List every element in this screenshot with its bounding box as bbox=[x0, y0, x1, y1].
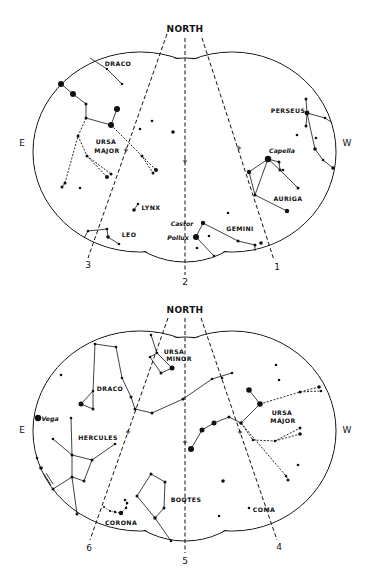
star-icon bbox=[132, 208, 136, 212]
star-icon bbox=[52, 438, 55, 441]
star-icon bbox=[313, 147, 317, 151]
star-icon bbox=[170, 366, 175, 371]
star-icon bbox=[248, 507, 251, 510]
star-icon bbox=[282, 169, 285, 172]
star-icon bbox=[87, 230, 90, 233]
star-icon bbox=[317, 385, 321, 389]
meridian-number-2: 2 bbox=[182, 277, 188, 287]
star-icon bbox=[106, 235, 110, 239]
star-icon bbox=[105, 175, 109, 179]
star-icon bbox=[77, 135, 80, 138]
star-icon bbox=[315, 137, 318, 140]
star-icon bbox=[257, 401, 263, 407]
east-label: E bbox=[19, 138, 25, 148]
star-icon bbox=[35, 415, 41, 421]
west-label: W bbox=[343, 425, 352, 435]
meridian-number-6: 6 bbox=[86, 543, 92, 553]
star-icon bbox=[149, 356, 152, 359]
star-icon bbox=[114, 511, 116, 513]
star-icon bbox=[163, 507, 166, 510]
star-icon bbox=[305, 111, 310, 116]
star-name-vega: Vega bbox=[41, 415, 58, 423]
constellation-label-perseus: PERSEUS bbox=[271, 107, 306, 114]
meridian-number-3: 3 bbox=[85, 260, 91, 270]
star-icon bbox=[58, 81, 64, 87]
star-icon bbox=[212, 421, 217, 426]
star-icon bbox=[60, 374, 63, 377]
constellation-label-ursa: URSA bbox=[272, 409, 293, 416]
meridian-number-4: 4 bbox=[276, 542, 282, 552]
star-icon bbox=[285, 209, 289, 213]
constellation-label-auriga: AURIGA bbox=[274, 195, 303, 202]
constellation-label-coma: COMA bbox=[253, 506, 275, 513]
star-icon bbox=[126, 502, 129, 505]
star-icon bbox=[265, 156, 271, 162]
star-icon bbox=[70, 91, 76, 97]
star-icon bbox=[114, 106, 120, 112]
star-icon bbox=[92, 408, 95, 411]
star-icon bbox=[109, 510, 111, 512]
constellation-label-lynx: LYNX bbox=[141, 204, 160, 211]
star-icon bbox=[141, 155, 144, 158]
star-icon bbox=[305, 98, 308, 101]
star-icon bbox=[188, 446, 194, 452]
star-icon bbox=[79, 402, 84, 407]
star-icon bbox=[278, 161, 281, 164]
star-icon bbox=[70, 417, 73, 420]
star-icon bbox=[153, 516, 157, 520]
star-icon bbox=[193, 234, 199, 240]
star-icon bbox=[208, 235, 211, 238]
constellation-label-major: MAJOR bbox=[270, 417, 295, 425]
star-icon bbox=[221, 377, 224, 380]
star-icon bbox=[254, 244, 257, 247]
star-icon bbox=[150, 334, 153, 337]
constellation-label-ursa: URSA bbox=[164, 348, 185, 355]
star-icon bbox=[151, 412, 154, 415]
star-icon bbox=[218, 515, 221, 518]
star-icon bbox=[130, 396, 133, 399]
constellation-label-bootes: BOOTES bbox=[171, 496, 202, 503]
star-icon bbox=[285, 475, 288, 478]
star-icon bbox=[115, 346, 118, 349]
constellation-label-draco: DRACO bbox=[105, 60, 132, 67]
star-icon bbox=[156, 352, 159, 355]
star-icon bbox=[36, 457, 39, 460]
star-icon bbox=[110, 173, 113, 176]
star-icon bbox=[154, 168, 158, 172]
star-icon bbox=[137, 203, 140, 206]
star-icon bbox=[61, 186, 64, 189]
constellation-label-gemini: GEMINI bbox=[226, 225, 254, 232]
star-icon bbox=[86, 155, 89, 158]
star-icon bbox=[279, 169, 282, 172]
star-icon bbox=[121, 377, 124, 380]
star-icon bbox=[201, 221, 205, 225]
star-icon bbox=[297, 464, 300, 467]
constellation-label-major: MAJOR bbox=[94, 147, 119, 155]
north-label: NORTH bbox=[167, 305, 204, 315]
star-chart-top: 321DRACOURSAMAJORLYNXLEOGEMINICastorPoll… bbox=[19, 24, 351, 287]
star-icon bbox=[151, 120, 154, 123]
star-icon bbox=[287, 479, 290, 482]
star-icon bbox=[139, 128, 142, 131]
star-icon bbox=[227, 212, 230, 215]
star-icon bbox=[231, 372, 234, 375]
star-icon bbox=[76, 513, 79, 516]
star-icon bbox=[83, 480, 86, 483]
star-name-capella: Capella bbox=[269, 147, 295, 155]
star-icon bbox=[298, 432, 302, 436]
star-icon bbox=[94, 343, 97, 346]
star-icon bbox=[91, 459, 94, 462]
star-name-pollux: Pollux bbox=[167, 234, 189, 241]
star-icon bbox=[237, 240, 240, 243]
star-icon bbox=[136, 495, 139, 498]
constellation-label-corona: CORONA bbox=[105, 519, 137, 526]
constellation-label-minor: MINOR bbox=[166, 355, 192, 362]
star-icon bbox=[246, 387, 252, 393]
star-icon bbox=[278, 379, 281, 382]
star-icon bbox=[64, 182, 67, 185]
meridian-number-5: 5 bbox=[182, 556, 188, 566]
east-label: E bbox=[19, 425, 25, 435]
star-icon bbox=[171, 130, 175, 134]
star-icon bbox=[152, 172, 155, 175]
constellation-label-hercules: HERCULES bbox=[78, 434, 118, 441]
